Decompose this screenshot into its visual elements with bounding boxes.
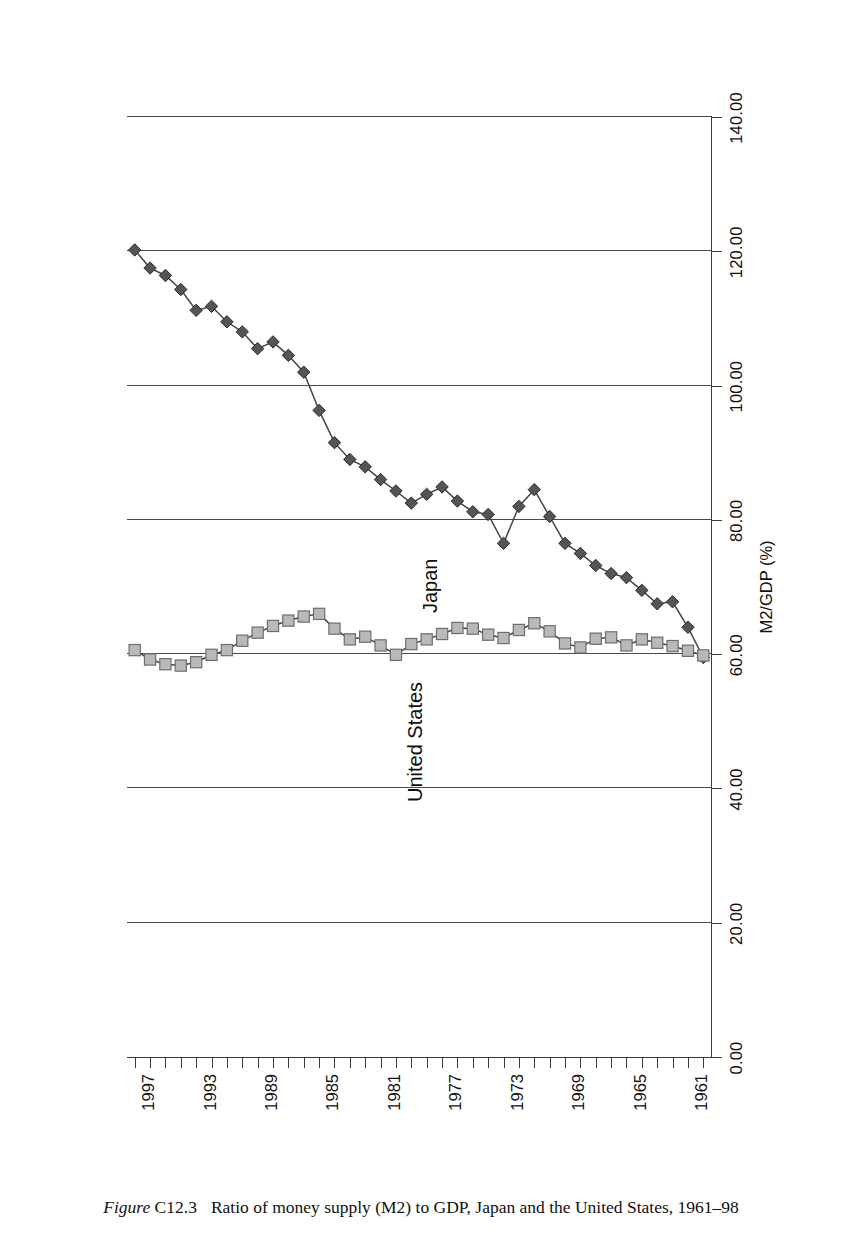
category-axis-tick [273, 1058, 274, 1068]
category-axis-tick [381, 1058, 382, 1068]
value-axis-tick [711, 788, 722, 789]
value-axis-tick-label: 80.00 [727, 486, 746, 556]
data-point [298, 611, 309, 622]
data-point [559, 638, 570, 649]
category-axis-tick [165, 1058, 166, 1068]
category-axis-tick [304, 1058, 305, 1068]
data-point [529, 618, 540, 629]
data-point [543, 510, 555, 522]
data-point [267, 620, 278, 631]
category-axis-tick [550, 1058, 551, 1068]
category-axis-tick [212, 1058, 213, 1068]
data-point [421, 634, 432, 645]
data-point [682, 621, 694, 633]
series-label-japan: Japan [419, 559, 442, 614]
value-axis-title: M2/GDP (%) [757, 116, 776, 1058]
value-axis-tick [711, 386, 722, 387]
data-point [344, 634, 355, 645]
data-point [590, 633, 601, 644]
data-point [175, 660, 186, 671]
value-axis-tick [711, 117, 722, 118]
value-axis-tick-label: 40.00 [727, 754, 746, 824]
plot-area: Japan United States [127, 118, 711, 1058]
category-axis-tick-label: 1993 [201, 1074, 220, 1136]
data-point [406, 638, 417, 649]
rotated-chart-wrapper: Japan United States 140.00120.00100.0080… [91, 88, 791, 1208]
data-point [360, 631, 371, 642]
category-axis-tick [488, 1058, 489, 1068]
category-axis-tick [135, 1058, 136, 1068]
category-axis-tick-label: 1961 [692, 1074, 711, 1136]
category-axis-tick [242, 1058, 243, 1068]
category-axis-tick [534, 1058, 535, 1068]
category-axis-tick [365, 1058, 366, 1068]
category-axis-tick [427, 1058, 428, 1068]
data-point [513, 624, 524, 635]
data-point [375, 640, 386, 651]
data-point [483, 629, 494, 640]
category-axis-tick-label: 1985 [323, 1074, 342, 1136]
category-axis-tick [258, 1058, 259, 1068]
data-point [666, 596, 678, 608]
category-axis-tick [565, 1058, 566, 1068]
category-axis-tick-label: 1989 [262, 1074, 281, 1136]
value-axis-tick-label: 60.00 [727, 620, 746, 690]
category-axis-tick [703, 1058, 704, 1068]
data-point [191, 657, 202, 668]
data-point [559, 537, 571, 549]
value-axis-tick-label: 140.00 [727, 83, 746, 153]
data-point [544, 626, 555, 637]
value-axis-tick [711, 520, 722, 521]
data-point [329, 623, 340, 634]
data-point [605, 567, 617, 579]
value-axis-tick-label: 0.00 [727, 1023, 746, 1093]
data-point [190, 304, 202, 316]
category-axis-tick [227, 1058, 228, 1068]
category-axis-tick [473, 1058, 474, 1068]
chart-figure: Japan United States 140.00120.00100.0080… [91, 88, 791, 1208]
category-axis-tick-label: 1965 [631, 1074, 650, 1136]
category-axis-tick [657, 1058, 658, 1068]
caption-text: Ratio of money supply (M2) to GDP, Japan… [211, 1197, 739, 1217]
category-axis-tick [350, 1058, 351, 1068]
value-axis-tick-label: 20.00 [727, 889, 746, 959]
value-axis-tick-label: 120.00 [727, 217, 746, 287]
value-axis-tick [711, 654, 722, 655]
data-point [314, 608, 325, 619]
data-point [606, 632, 617, 643]
category-axis-tick [442, 1058, 443, 1068]
category-axis-tick-label: 1977 [446, 1074, 465, 1136]
data-point [652, 637, 663, 648]
category-axis-tick [288, 1058, 289, 1068]
data-point [452, 622, 463, 633]
data-point [313, 404, 325, 416]
data-point [420, 488, 432, 500]
category-axis-tick [626, 1058, 627, 1068]
data-point [482, 508, 494, 520]
category-axis-tick-label: 1973 [508, 1074, 527, 1136]
value-axis-line [711, 116, 712, 1058]
category-axis-tick [457, 1058, 458, 1068]
data-point [160, 659, 171, 670]
data-point [667, 640, 678, 651]
series-line-united-states [135, 614, 704, 666]
data-point [682, 645, 693, 656]
series-label-united-states: United States [404, 682, 427, 802]
category-axis-tick [181, 1058, 182, 1068]
category-axis-tick [673, 1058, 674, 1068]
caption-figure-word: Figure [103, 1197, 150, 1217]
category-axis-tick [411, 1058, 412, 1068]
data-point [221, 645, 232, 656]
data-point [390, 649, 401, 660]
category-axis-tick [396, 1058, 397, 1068]
value-axis-tick [711, 1057, 722, 1058]
data-point [129, 645, 140, 656]
data-point [698, 650, 709, 661]
category-axis-tick [642, 1058, 643, 1068]
value-axis-tick-label: 100.00 [727, 352, 746, 422]
category-axis-tick [519, 1058, 520, 1068]
category-axis-tick-label: 1981 [385, 1074, 404, 1136]
data-point [144, 654, 155, 665]
data-point [497, 537, 509, 549]
figure-page: Japan United States 140.00120.00100.0080… [0, 0, 842, 1252]
